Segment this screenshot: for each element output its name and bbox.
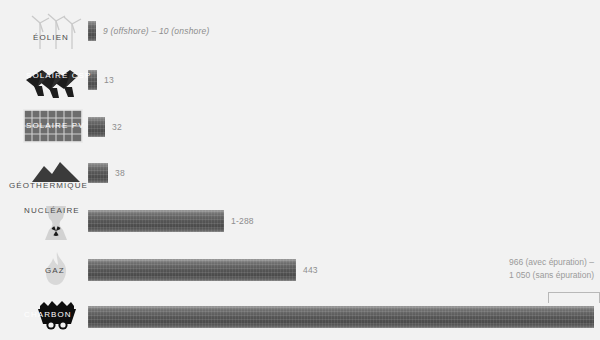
bar-solaire-pv (88, 117, 105, 137)
bar-wrap-geothermique: 38 (88, 150, 125, 196)
bar-value-gaz: 443 (303, 265, 318, 275)
chart-label-solaire-csp: SOLAIRE CSP (26, 71, 91, 80)
chart-label-solaire-pv: SOLAIRE PV (26, 121, 85, 130)
wind-turbine-icon (28, 11, 84, 51)
bar-value-geothermique: 38 (115, 168, 125, 178)
chart-label-gaz: GAZ (45, 266, 65, 275)
bar-wrap-solaire-pv: 32 (88, 104, 122, 150)
solar-csp-mirror-icon (24, 62, 86, 100)
coal-annotation: 966 (avec épuration) – 1 050 (sans épura… (509, 256, 594, 282)
bar-gaz (88, 259, 296, 281)
chart-row-geothermique: GÉOTHERMIQUE 38 (0, 150, 600, 196)
bar-wrap-nucleaire: 1-288 (88, 198, 254, 244)
geothermal-mountain-icon (30, 158, 82, 182)
bar-wrap-gaz: 443 (88, 247, 318, 293)
bar-value-solaire-csp: 13 (104, 75, 114, 85)
bar-value-eolien: 9 (offshore) – 10 (onshore) (103, 26, 210, 36)
bar-wrap-solaire-csp: 13 (88, 57, 114, 103)
chart-row-nucleaire: NUCLÉAIRE 1-288 (0, 198, 600, 244)
coal-annotation-line2: 1 050 (sans épuration) (509, 269, 594, 282)
bar-geothermique (88, 163, 108, 183)
bar-nucleaire (88, 210, 224, 232)
coal-annotation-line1: 966 (avec épuration) – (509, 256, 594, 269)
chart-label-eolien: ÉOLIEN (33, 33, 69, 42)
chart-label-charbon: CHARBON (24, 310, 72, 319)
bar-wrap-charbon (88, 294, 594, 340)
bar-value-solaire-pv: 32 (112, 122, 122, 132)
bar-eolien (88, 21, 96, 41)
emissions-bar-chart: ÉOLIEN 9 (offshore) – 10 (onshore) (0, 0, 600, 340)
chart-row-charbon: CHARBON (0, 294, 600, 340)
chart-row-solaire-pv: SOLAIRE PV 32 (0, 104, 600, 150)
chart-row-solaire-csp: SOLAIRE CSP 13 (0, 57, 600, 103)
chart-label-nucleaire: NUCLÉAIRE (24, 206, 80, 215)
chart-row-eolien: ÉOLIEN 9 (offshore) – 10 (onshore) (0, 8, 600, 54)
bar-value-nucleaire: 1-288 (231, 216, 254, 226)
chart-label-geothermique: GÉOTHERMIQUE (9, 181, 88, 190)
bar-wrap-eolien: 9 (offshore) – 10 (onshore) (88, 8, 210, 54)
bar-charbon (88, 306, 594, 328)
chart-row-gaz: GAZ 443 966 (avec épuration) – 1 050 (sa… (0, 247, 600, 293)
